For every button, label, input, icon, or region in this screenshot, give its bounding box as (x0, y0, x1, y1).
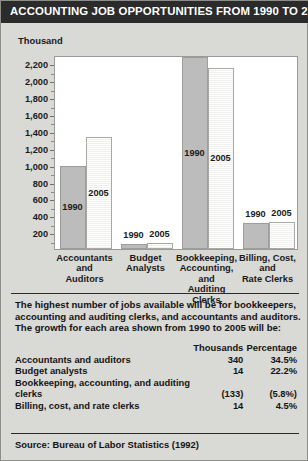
cell-category: Bookkeeping, accounting, and auditing (15, 377, 190, 389)
bar-value-label: 2005 (210, 153, 230, 163)
x-axis-label-line: Rate Clerks (237, 274, 298, 284)
cell-category: Budget analysts (15, 365, 190, 377)
col-header-name (15, 342, 190, 354)
plot-area: 2,2002,0001,8001,6001,4001,2001,00080060… (54, 56, 298, 250)
bar-group: 19902005 (116, 57, 177, 249)
y-axis-minor-tick (51, 141, 54, 142)
title-banner: ACCOUNTING JOB OPPORTUNITIES FROM 1990 T… (1, 1, 308, 23)
cell-category: Accountants and auditors (15, 354, 190, 366)
y-axis-minor-tick (51, 209, 54, 210)
bar-1990: 1990 (60, 166, 86, 249)
page-title: ACCOUNTING JOB OPPORTUNITIES FROM 1990 T… (10, 5, 308, 17)
bar-value-label: 1990 (184, 148, 204, 158)
y-axis-tick-label: 2,000 (8, 77, 55, 87)
y-axis-minor-tick (51, 243, 54, 244)
cell-percentage: 4.5% (243, 400, 297, 412)
cell-category: clerks (15, 388, 190, 400)
cell-percentage: (5.8%) (243, 388, 297, 400)
y-axis-minor-tick (51, 158, 54, 159)
cell-percentage (243, 377, 297, 389)
source-note: Source: Bureau of Labor Statistics (1992… (15, 439, 199, 450)
table-row: Billing, cost, and rate clerks144.5% (15, 400, 297, 412)
paragraph-line: The growth for each area shown from 1990… (15, 322, 297, 334)
table-body: Accountants and auditors34034.5%Budget a… (15, 354, 297, 412)
bar-1990: 1990 (121, 244, 147, 249)
table-header: Thousands Percentage (15, 342, 297, 354)
summary-paragraph: The highest number of jobs available wil… (15, 299, 297, 334)
col-header-percentage: Percentage (243, 342, 297, 354)
y-axis-tick-label: 200 (8, 229, 55, 239)
bar-1990: 1990 (243, 223, 269, 249)
x-axis-label: AccountantsandAuditors (54, 253, 115, 284)
divider-bottom (11, 433, 299, 434)
x-axis-label-line: Accounting, (176, 263, 237, 273)
y-axis-tick-label: 1,800 (8, 94, 55, 104)
y-axis-minor-tick (51, 74, 54, 75)
y-axis-unit-label: Thousand (18, 35, 63, 46)
y-axis-minor-tick (51, 226, 54, 227)
y-axis-minor-tick (51, 175, 54, 176)
bar-2005: 2005 (86, 137, 112, 249)
cell-thousands: (133) (190, 388, 243, 400)
x-axis-label-line: Billing, Cost, (237, 253, 298, 263)
y-axis-tick-label: 800 (8, 179, 55, 189)
cell-percentage: 22.2% (243, 365, 297, 377)
cell-thousands: 340 (190, 354, 243, 366)
cell-thousands: 14 (190, 365, 243, 377)
cell-thousands (190, 377, 243, 389)
y-axis-tick-label: 1,000 (8, 162, 55, 172)
bar-group: 19902005 (238, 57, 299, 249)
x-axis-label: Bookkeeping,Accounting,andAuditingClerks (176, 253, 237, 305)
y-axis-minor-tick (51, 91, 54, 92)
x-axis-label-line: and (54, 263, 115, 273)
y-axis-tick-label: 1,200 (8, 145, 55, 155)
x-axis-label-line: Budget (115, 253, 176, 263)
y-axis-tick-label: 2,200 (8, 60, 55, 70)
paragraph-line: The highest number of jobs available wil… (15, 299, 297, 311)
y-axis-minor-tick (51, 108, 54, 109)
table-row: clerks(133)(5.8%) (15, 388, 297, 400)
y-axis-tick-label: 400 (8, 212, 55, 222)
cell-thousands: 14 (190, 400, 243, 412)
x-axis-label-line: and (237, 263, 298, 273)
cell-category: Billing, cost, and rate clerks (15, 400, 190, 412)
table-row: Budget analysts1422.2% (15, 365, 297, 377)
chart-region: Thousand 2,2002,0001,8001,6001,4001,2001… (1, 23, 308, 291)
table-row: Accountants and auditors34034.5% (15, 354, 297, 366)
y-axis-tick-label: 1,600 (8, 111, 55, 121)
table-row: Bookkeeping, accounting, and auditing (15, 377, 297, 389)
col-header-thousands: Thousands (190, 342, 243, 354)
x-axis-label-line: and (176, 274, 237, 284)
y-axis-tick-label: 600 (8, 195, 55, 205)
bar-2005: 2005 (147, 243, 173, 249)
divider-top (11, 293, 299, 294)
bar-value-label: 2005 (271, 208, 291, 218)
x-axis-label-line: Auditors (54, 274, 115, 284)
bar-2005: 2005 (208, 68, 234, 249)
bar-value-label: 2005 (88, 188, 108, 198)
cell-percentage: 34.5% (243, 354, 297, 366)
bar-group: 19902005 (55, 57, 116, 249)
bar-group: 19902005 (177, 57, 238, 249)
y-axis-tick-label: 1,400 (8, 128, 55, 138)
bar-2005: 2005 (269, 222, 295, 249)
y-axis-minor-tick (51, 192, 54, 193)
x-axis-label-line: Accountants (54, 253, 115, 263)
table-header-row: Thousands Percentage (15, 342, 297, 354)
bar-value-label: 1990 (123, 230, 143, 240)
growth-table: Thousands Percentage Accountants and aud… (15, 342, 297, 412)
x-axis-label: BudgetAnalysts (115, 253, 176, 274)
x-axis-label-line: Analysts (115, 263, 176, 273)
bar-value-label: 1990 (245, 209, 265, 219)
bar-1990: 1990 (182, 57, 208, 249)
page-container: ACCOUNTING JOB OPPORTUNITIES FROM 1990 T… (0, 0, 308, 461)
paragraph-line: accounting and auditing clerks, and acco… (15, 311, 297, 323)
x-axis-label: Billing, Cost,andRate Clerks (237, 253, 298, 284)
y-axis-minor-tick (51, 124, 54, 125)
bar-value-label: 2005 (149, 229, 169, 239)
bar-value-label: 1990 (62, 202, 82, 212)
x-axis-label-line: Bookkeeping, (176, 253, 237, 263)
